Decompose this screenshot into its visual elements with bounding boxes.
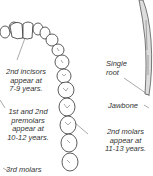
molars2-pointer (75, 123, 88, 134)
incisors-label: 2nd incisors appear at 7-9 years. (0, 68, 52, 94)
molars3-label: 3rd molars (6, 166, 41, 175)
jawbone-label: Jawbone (108, 102, 138, 111)
single-root-icon (139, 0, 152, 95)
single-root-label: Single root (106, 60, 127, 77)
jawbone-pointer (144, 105, 149, 108)
tooth (0, 26, 10, 38)
label-line: 10-12 years. (2, 134, 54, 143)
label-line: 7-9 years. (0, 85, 52, 94)
label-line: root (106, 69, 127, 78)
label-line: 11-13 years. (98, 145, 153, 154)
label-line: 3rd molars (6, 165, 41, 174)
premolars-label: 1st and 2nd premolars appear at 10-12 ye… (2, 108, 54, 142)
incisors-pointer (17, 38, 25, 60)
molars2-label: 2nd molars appear at 11-13 years. (98, 128, 153, 154)
